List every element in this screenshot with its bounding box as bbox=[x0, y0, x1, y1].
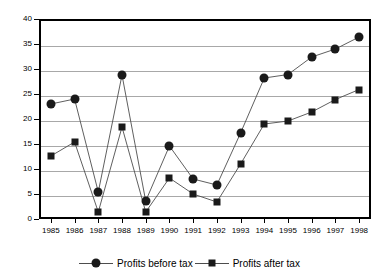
series-line bbox=[51, 37, 359, 201]
x-tick-label: 1995 bbox=[279, 226, 297, 235]
x-tick-mark bbox=[75, 219, 76, 223]
y-tick-label: 30 bbox=[23, 65, 32, 73]
x-tick-mark bbox=[169, 219, 170, 223]
legend-entry: Profits after tax bbox=[195, 258, 302, 269]
x-tick-mark bbox=[217, 219, 218, 223]
legend-marker-circle-icon bbox=[79, 258, 113, 269]
x-tick-label: 1989 bbox=[137, 226, 155, 235]
y-tick-label: 25 bbox=[23, 90, 32, 98]
x-tick-mark bbox=[335, 219, 336, 223]
x-tick-mark bbox=[146, 219, 147, 223]
x-tick-mark bbox=[288, 219, 289, 223]
x-tick-mark bbox=[264, 219, 265, 223]
x-tick-mark bbox=[312, 219, 313, 223]
y-axis: 0510152025303540 bbox=[0, 0, 39, 238]
x-tick-label: 1985 bbox=[42, 226, 60, 235]
x-tick-label: 1987 bbox=[89, 226, 107, 235]
x-tick-label: 1993 bbox=[232, 226, 250, 235]
y-tick-label: 20 bbox=[23, 115, 32, 123]
x-tick-label: 1994 bbox=[255, 226, 273, 235]
x-tick-label: 1996 bbox=[303, 226, 321, 235]
y-tick-label: 40 bbox=[23, 15, 32, 23]
y-tick-label: 5 bbox=[28, 190, 32, 198]
y-tick-label: 35 bbox=[23, 40, 32, 48]
legend-entry: Profits before tax bbox=[79, 258, 195, 269]
y-tick-label: 10 bbox=[23, 165, 32, 173]
x-tick-label: 1988 bbox=[113, 226, 131, 235]
series-line bbox=[51, 90, 359, 213]
x-tick-mark bbox=[122, 219, 123, 223]
legend-label: Profits after tax bbox=[229, 258, 302, 269]
x-tick-mark bbox=[359, 219, 360, 223]
series-lines bbox=[39, 19, 371, 219]
legend-label: Profits before tax bbox=[113, 258, 195, 269]
chart-legend: Profits before taxProfits after tax bbox=[0, 252, 381, 274]
x-tick-label: 1998 bbox=[350, 226, 368, 235]
x-tick-mark bbox=[193, 219, 194, 223]
x-tick-label: 1991 bbox=[184, 226, 202, 235]
line-chart: 0510152025303540 19851986198719881989199… bbox=[0, 0, 381, 278]
x-tick-mark bbox=[241, 219, 242, 223]
x-tick-mark bbox=[51, 219, 52, 223]
x-tick-mark bbox=[98, 219, 99, 223]
legend-marker-square-icon bbox=[195, 258, 229, 269]
x-tick-label: 1992 bbox=[208, 226, 226, 235]
y-tick-label: 0 bbox=[28, 215, 32, 223]
x-tick-label: 1997 bbox=[327, 226, 345, 235]
y-tick-label: 15 bbox=[23, 140, 32, 148]
x-tick-label: 1990 bbox=[161, 226, 179, 235]
x-tick-label: 1986 bbox=[66, 226, 84, 235]
